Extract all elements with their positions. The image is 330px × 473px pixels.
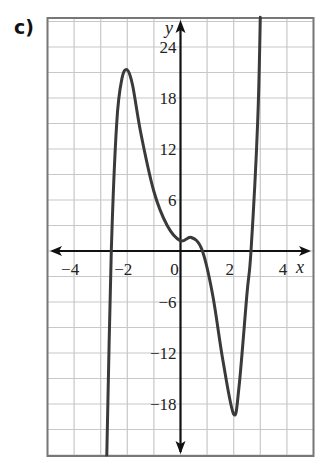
- y-tick-label: −6: [158, 293, 176, 312]
- y-tick-label: −18: [150, 395, 177, 414]
- function-graph: −4−20242418126−6−12−18 x y: [0, 0, 330, 473]
- x-tick-label: 4: [279, 260, 288, 279]
- y-axis-label: y: [163, 18, 173, 38]
- x-tick-label: −2: [114, 260, 132, 279]
- y-tick-label: 18: [160, 89, 177, 108]
- y-tick-label: 12: [160, 140, 177, 159]
- y-tick-label: 6: [168, 191, 177, 210]
- x-axis-label: x: [295, 257, 304, 277]
- y-tick-label: 24: [160, 38, 178, 57]
- axes: [50, 20, 311, 454]
- function-curve: [107, 17, 260, 455]
- x-tick-label: 2: [225, 260, 234, 279]
- x-tick-label: −4: [61, 260, 80, 279]
- x-tick-label: 0: [170, 260, 179, 279]
- y-tick-label: −12: [150, 344, 177, 363]
